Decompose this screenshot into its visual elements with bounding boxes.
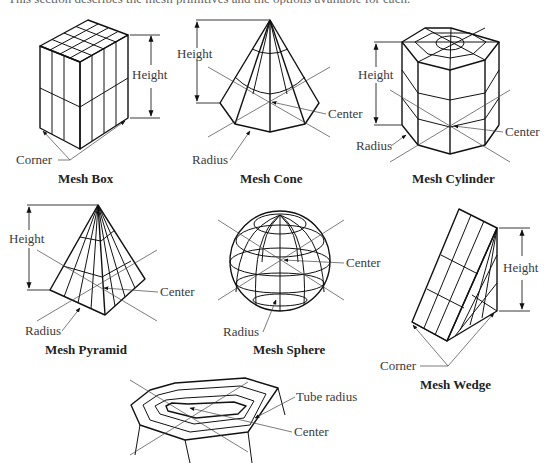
pyramid-radius-label: Radius: [25, 323, 61, 338]
mesh-torus-shape: [131, 378, 285, 463]
wedge-height-label: Height: [503, 260, 539, 275]
mesh-pyramid-panel: Height Center Radius Mesh Pyramid: [9, 205, 195, 357]
mesh-sphere-caption: Mesh Sphere: [253, 342, 326, 357]
box-height-label: Height: [132, 67, 168, 82]
mesh-wedge-panel: Height Corner Mesh Wedge: [380, 209, 539, 392]
mesh-sphere-panel: Center Radius Mesh Sphere: [218, 211, 381, 357]
cone-radius-label: Radius: [192, 152, 228, 167]
mesh-primitives-figure: Height Corner Mesh Box Height Center: [0, 0, 548, 463]
torus-center-label: Center: [294, 424, 329, 439]
pyramid-center-label: Center: [160, 284, 195, 299]
mesh-box-panel: Height Corner Mesh Box: [16, 20, 168, 186]
mesh-cone-caption: Mesh Cone: [240, 171, 303, 186]
torus-tube-radius-label: Tube radius: [296, 389, 357, 404]
mesh-cone-shape: [220, 20, 319, 132]
cylinder-height-label: Height: [358, 67, 394, 82]
mesh-cylinder-panel: Height Center Radius Mesh Cylinder: [356, 28, 540, 186]
mesh-cylinder-shape: [402, 28, 499, 154]
cylinder-radius-label: Radius: [356, 138, 392, 153]
mesh-box-caption: Mesh Box: [58, 171, 114, 186]
pyramid-height-label: Height: [9, 231, 45, 246]
cylinder-center-label: Center: [505, 124, 540, 139]
mesh-torus-panel: Tube radius Center: [130, 378, 357, 463]
mesh-cylinder-caption: Mesh Cylinder: [412, 171, 495, 186]
mesh-pyramid-caption: Mesh Pyramid: [45, 342, 128, 357]
cone-height-label: Height: [177, 46, 213, 61]
cone-center-label: Center: [328, 106, 363, 121]
mesh-wedge-caption: Mesh Wedge: [420, 377, 491, 392]
mesh-cone-panel: Height Center Radius Mesh Cone: [177, 20, 363, 186]
mesh-box-shape: [40, 20, 128, 149]
sphere-center-label: Center: [346, 255, 381, 270]
mesh-pyramid-shape: [50, 205, 145, 315]
box-corner-label: Corner: [16, 152, 53, 167]
sphere-radius-label: Radius: [223, 324, 259, 339]
wedge-corner-label: Corner: [380, 358, 417, 373]
mesh-wedge-shape: [412, 209, 497, 341]
